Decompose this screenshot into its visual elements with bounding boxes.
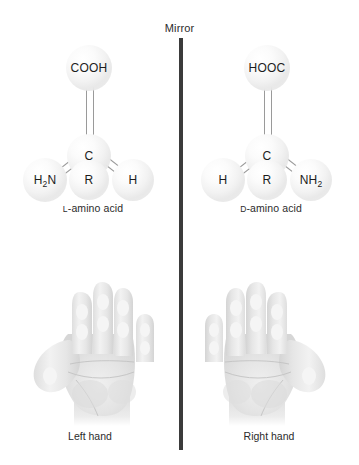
caption-l-amino-acid: L-amino acid xyxy=(8,202,178,214)
molecule-l-amino-acid: COOH C H2N R H xyxy=(8,40,178,225)
left-hand-svg xyxy=(18,268,178,426)
right-hand-illustration xyxy=(181,268,341,426)
atom-r-group-mirror: R xyxy=(247,160,287,200)
atom-hydrogen-mirror-label: H xyxy=(219,174,228,186)
atom-amino-group-mirror-label: NH2 xyxy=(300,174,323,186)
atom-hooc: HOOC xyxy=(244,45,290,91)
atom-hydrogen-label: H xyxy=(129,174,138,186)
atom-hooc-label: HOOC xyxy=(249,62,286,74)
molecule-d-amino-acid: HOOC C H R NH2 xyxy=(186,40,356,225)
atom-amino-group-mirror: NH2 xyxy=(290,159,332,201)
right-hand-svg xyxy=(181,268,341,426)
mirror-label: Mirror xyxy=(0,22,359,34)
right-hand-label: Right hand xyxy=(189,430,349,442)
atom-r-group-mirror-label: R xyxy=(263,174,272,186)
atom-amino-group-label: H2N xyxy=(34,174,57,186)
atom-amino-group: H2N xyxy=(23,158,67,202)
atom-cooh: COOH xyxy=(66,45,112,91)
left-hand-illustration xyxy=(18,268,178,426)
atom-cooh-label: COOH xyxy=(71,62,108,74)
caption-d-amino-acid: D-amino acid xyxy=(186,202,356,214)
atom-hydrogen: H xyxy=(112,159,154,201)
caption-d-amino-acid-rest: -amino acid xyxy=(246,202,301,214)
atom-hydrogen-mirror: H xyxy=(201,158,245,202)
atom-r-group-label: R xyxy=(85,174,94,186)
caption-l-amino-acid-rest: -amino acid xyxy=(68,202,123,214)
left-hand-label: Left hand xyxy=(10,430,170,442)
chirality-figure: Mirror COOH C H2N R H L-amino acid HOOC xyxy=(0,0,359,465)
atom-r-group: R xyxy=(69,160,109,200)
